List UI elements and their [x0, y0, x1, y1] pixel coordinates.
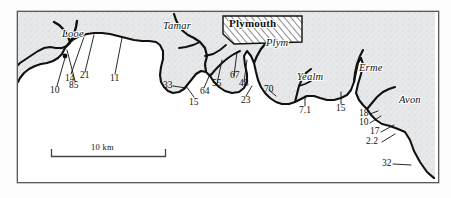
river-label-erme: Erme: [359, 63, 383, 74]
value-label-48: 48: [239, 79, 249, 89]
value-label-23: 23: [241, 96, 251, 106]
value-label-10-avon: 10: [359, 118, 369, 128]
value-label-85: 85: [69, 81, 79, 91]
value-label-7-1: 7.1: [299, 106, 311, 116]
value-label-10-looe: 10: [50, 86, 60, 96]
scale-bar-label: 10 km: [91, 143, 114, 152]
value-label-11: 11: [110, 74, 119, 84]
river-label-yealm: Yealm: [297, 72, 323, 83]
value-label-64: 64: [200, 87, 210, 97]
river-label-avon: Avon: [399, 95, 421, 106]
river-label-looe: Looe: [62, 29, 84, 40]
value-label-21: 21: [80, 71, 90, 81]
map-frame: Looe Tamar Plymouth Plym Yealm Erme Avon…: [17, 11, 439, 183]
value-label-2-2: 2.2: [366, 137, 378, 147]
value-label-55: 55: [212, 79, 222, 89]
value-label-70: 70: [264, 85, 274, 95]
scale-bar: 10 km: [50, 143, 167, 159]
river-label-tamar: Tamar: [163, 21, 191, 32]
value-label-15-tamar: 15: [189, 98, 199, 108]
river-label-plym: Plym: [266, 38, 288, 49]
value-label-32: 32: [382, 159, 392, 169]
coastal-map-figure: Looe Tamar Plymouth Plym Yealm Erme Avon…: [0, 0, 451, 198]
value-label-15-erme: 15: [336, 104, 346, 114]
city-label-plymouth: Plymouth: [229, 18, 276, 29]
value-label-33: 33: [163, 81, 173, 91]
